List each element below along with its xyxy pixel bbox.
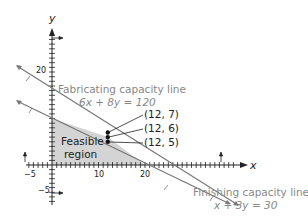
fabricating-shade-arrow-2 bbox=[164, 185, 168, 190]
y-tick-neg5: −5 bbox=[38, 186, 50, 195]
fabricating-line-equation: 6x + 8y = 120 bbox=[79, 96, 156, 108]
feasible-region-label-line2: region bbox=[64, 148, 97, 160]
fabricating-shade-arrow bbox=[26, 76, 30, 81]
leader-line-12-7 bbox=[109, 115, 143, 132]
graph: y x 20 −5 −5 10 20 Fabricating capacity … bbox=[0, 0, 308, 223]
point-label-12-7: (12, 7) bbox=[144, 108, 179, 120]
y-axis-arrow-icon bbox=[49, 28, 55, 36]
x-axis-label: x bbox=[249, 159, 257, 172]
scale-indicator-arrows bbox=[24, 37, 223, 195]
x-tick-10: 10 bbox=[94, 170, 104, 179]
finishing-line-title: Finishing capacity line bbox=[193, 186, 308, 198]
y-tick-20: 20 bbox=[36, 66, 46, 75]
fabricating-line-title: Fabricating capacity line bbox=[58, 83, 186, 95]
x-tick-20: 20 bbox=[140, 170, 150, 179]
finishing-shade-arrow bbox=[29, 108, 32, 113]
y-axis-label: y bbox=[48, 12, 56, 25]
leader-line-12-6 bbox=[109, 129, 143, 137]
point-12-7 bbox=[106, 130, 110, 134]
point-label-12-6: (12, 6) bbox=[144, 122, 179, 134]
x-axis-arrow-icon bbox=[240, 162, 248, 168]
feasible-region-label-line1: Feasible bbox=[61, 135, 104, 147]
x-tick-neg5: −5 bbox=[24, 170, 36, 179]
finishing-line-equation: x + 3y = 30 bbox=[213, 199, 278, 211]
point-label-12-5: (12, 5) bbox=[144, 136, 179, 148]
